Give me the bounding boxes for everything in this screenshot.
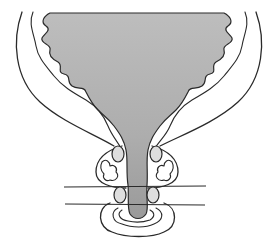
rectal-lumen [42,13,232,219]
rectum-anatomy-diagram [0,0,274,250]
muscle-blob-left [101,160,118,180]
pelvic-floor-line-upper [64,186,206,187]
gland-upper-right [150,146,162,162]
gland-upper-left [112,146,124,162]
gland-lower-left [114,187,126,203]
pelvic-floor-line-lower [65,204,205,205]
muscle-blob-right [156,160,173,180]
gland-lower-right [147,187,159,203]
